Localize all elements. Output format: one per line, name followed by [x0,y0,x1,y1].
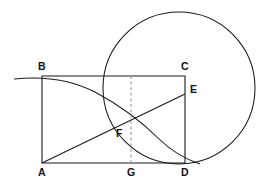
label-point-a: A [38,166,46,178]
rectangle-abcd [42,76,185,163]
label-point-e: E [190,83,197,95]
label-point-g: G [127,166,135,178]
segment-ae [42,94,185,163]
label-point-f: F [116,127,123,139]
label-point-b: B [38,60,46,72]
diagram-canvas: B C E F A G D [0,0,268,187]
label-point-d: D [181,166,189,178]
geometry-figure: B C E F A G D [0,0,268,187]
large-circle [103,12,255,164]
label-point-c: C [181,60,189,72]
